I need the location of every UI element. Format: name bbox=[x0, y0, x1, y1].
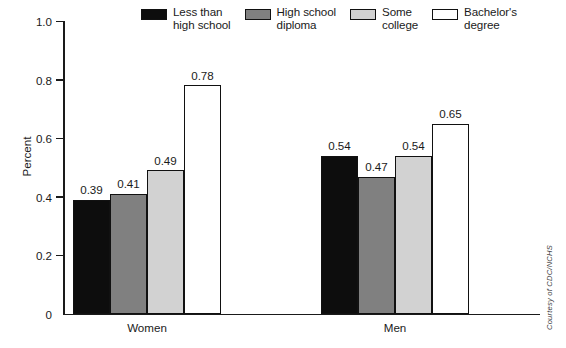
bar-chart-plot: 1.0 0.8 0.6 0.4 0.2 0 Percent 0.39 0.41 … bbox=[0, 0, 566, 348]
bar-value-women-high-school-diploma: 0.41 bbox=[106, 178, 152, 190]
bar-value-men-less-than-high-school: 0.54 bbox=[317, 140, 363, 152]
x-group-label-men: Men bbox=[335, 322, 455, 334]
bar-men-bachelors-degree bbox=[432, 124, 469, 315]
bar-value-men-high-school-diploma: 0.47 bbox=[354, 161, 400, 173]
bar-women-high-school-diploma bbox=[110, 194, 147, 314]
y-tick-mark-0.6 bbox=[56, 138, 64, 139]
y-tick-label-0.2: 0.2 bbox=[12, 249, 52, 262]
bar-value-women-some-college: 0.49 bbox=[143, 155, 189, 167]
bar-women-some-college bbox=[147, 170, 184, 314]
y-tick-label-0: 0 bbox=[12, 308, 52, 321]
y-axis-title: Percent bbox=[20, 117, 33, 197]
y-tick-label-1.0: 1.0 bbox=[12, 15, 52, 28]
x-group-label-women: Women bbox=[87, 322, 207, 334]
bar-value-men-some-college: 0.54 bbox=[391, 140, 437, 152]
y-tick-mark-0.4 bbox=[56, 196, 64, 197]
y-tick-mark-0.2 bbox=[56, 255, 64, 256]
bar-value-women-bachelors-degree: 0.78 bbox=[180, 70, 226, 82]
bar-women-bachelors-degree bbox=[184, 85, 221, 314]
bar-men-some-college bbox=[395, 156, 432, 314]
bar-women-less-than-high-school bbox=[73, 200, 110, 314]
bar-value-men-bachelors-degree: 0.65 bbox=[428, 108, 474, 120]
bar-men-less-than-high-school bbox=[321, 156, 358, 314]
bar-men-high-school-diploma bbox=[358, 177, 395, 315]
y-tick-mark-1.0 bbox=[56, 21, 64, 22]
chart-credit-text: Courtesy of CDC/NCHS bbox=[545, 228, 554, 348]
y-tick-label-0.8: 0.8 bbox=[12, 74, 52, 87]
y-tick-mark-0.8 bbox=[56, 79, 64, 80]
y-axis-line bbox=[63, 21, 65, 315]
